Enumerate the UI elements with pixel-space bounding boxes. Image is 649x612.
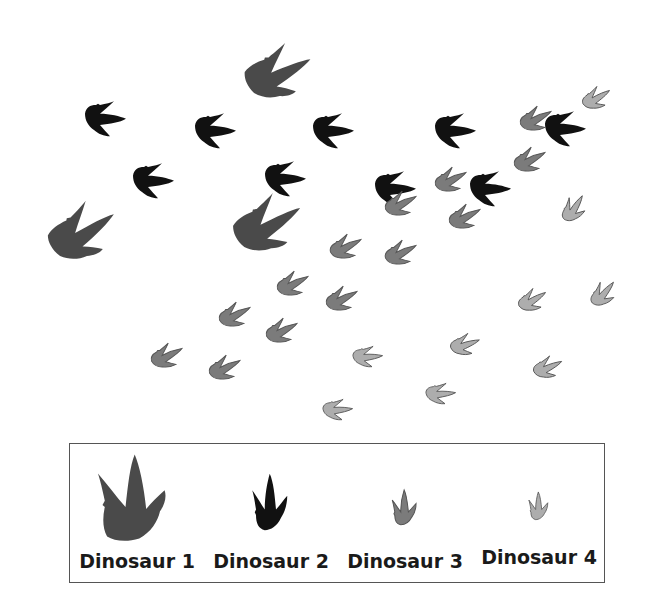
dinosaur-4-footprint-icon [425, 383, 456, 406]
light-gray-footprint-icon [521, 482, 557, 528]
dinosaur-4-footprint-icon [515, 284, 551, 317]
legend-item-dinosaur-1: Dinosaur 1 [70, 444, 204, 582]
dinosaur-2-footprint-icon [195, 113, 236, 148]
dinosaur-3-footprint-icon [263, 314, 302, 349]
medium-gray-footprint-icon [385, 482, 425, 532]
dinosaur-3-footprint-icon [206, 351, 245, 386]
dinosaur-4-footprint-icon [352, 346, 383, 369]
legend-label: Dinosaur 2 [204, 550, 338, 572]
dinosaur-3-footprint-icon [382, 236, 421, 271]
dinosaur-2-footprint-icon [545, 111, 586, 146]
dinosaur-2-footprint-icon [313, 113, 354, 148]
dinosaur-3-footprint-icon [216, 298, 255, 333]
dinosaur-3-footprint-icon [511, 143, 550, 178]
legend: Dinosaur 1 Dinosaur 2 Dinosaur 3 Dinosau… [69, 443, 605, 583]
legend-label: Dinosaur 3 [338, 550, 472, 572]
dinosaur-3-footprint-icon [327, 230, 366, 265]
dinosaur-4-trackway [322, 82, 621, 421]
dinosaur-2-footprint-icon [435, 113, 476, 148]
dinosaur-4-footprint-icon [531, 352, 566, 383]
dinosaur-2-footprint-icon [470, 171, 511, 206]
large-dark-gray-footprint-icon [97, 452, 177, 552]
legend-item-dinosaur-3: Dinosaur 3 [338, 444, 472, 582]
dinosaur-3-footprint-icon [148, 339, 187, 374]
legend-label: Dinosaur 4 [472, 546, 606, 568]
dinosaur-1-footprint-icon [239, 36, 321, 110]
dinosaur-2-footprint-icon [85, 101, 126, 136]
dinosaur-3-footprint-icon [446, 200, 485, 235]
dinosaur-2-footprint-icon [133, 163, 174, 198]
dinosaur-3-footprint-icon [274, 267, 313, 302]
legend-item-dinosaur-2: Dinosaur 2 [204, 444, 338, 582]
dinosaur-3-footprint-icon [323, 282, 362, 317]
dinosaur-2-footprint-icon [265, 161, 306, 196]
dinosaur-4-footprint-icon [558, 190, 591, 226]
dinosaur-4-footprint-icon [322, 399, 353, 422]
legend-label: Dinosaur 1 [70, 550, 204, 572]
trackway-area [0, 0, 649, 440]
dinosaur-4-footprint-icon [448, 330, 483, 359]
dinosaur-1-footprint-icon [41, 192, 127, 273]
dinosaur-4-footprint-icon [579, 82, 615, 115]
dinosaur-1-trackway [41, 36, 321, 273]
legend-item-dinosaur-4: Dinosaur 4 [472, 444, 606, 582]
black-footprint-icon [246, 472, 296, 547]
dinosaur-3-footprint-icon [432, 163, 471, 198]
dinosaur-1-footprint-icon [226, 185, 312, 264]
dinosaur-2-trackway [85, 101, 586, 206]
dinosaur-4-footprint-icon [587, 276, 621, 312]
